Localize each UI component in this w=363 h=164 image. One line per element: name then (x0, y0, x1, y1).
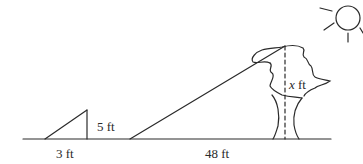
tree-icon (252, 46, 330, 139)
sun-icon (320, 6, 363, 42)
small-triangle (45, 110, 87, 139)
tree-height-unit: ft (295, 77, 307, 92)
small-height-label: 5 ft (97, 119, 115, 134)
tree-height-label: x ft (288, 77, 306, 92)
sun-ray-line (130, 46, 285, 139)
similar-triangles-diagram: 5 ft 3 ft 48 ft x ft (0, 0, 363, 164)
small-base-label: 3 ft (56, 146, 74, 161)
large-base-label: 48 ft (205, 146, 230, 161)
